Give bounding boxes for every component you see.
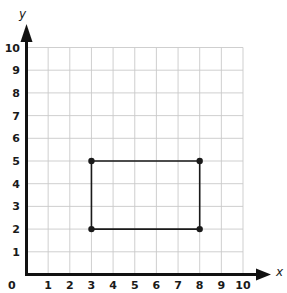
x-axis-label: x	[275, 265, 284, 279]
x-tick-label: 4	[109, 279, 117, 292]
y-tick-label: 5	[12, 155, 20, 168]
x-tick-label: 3	[88, 279, 96, 292]
x-tick-label: 6	[153, 279, 161, 292]
x-tick-label: 10	[235, 279, 251, 292]
rectangle-outline	[91, 161, 199, 229]
y-tick-label: 8	[12, 87, 20, 100]
vertex-point	[88, 158, 94, 164]
plotted-shapes	[88, 158, 203, 233]
vertex-point	[197, 158, 203, 164]
y-tick-label: 9	[12, 64, 20, 77]
y-tick-label: 3	[12, 200, 20, 213]
coordinate-plane: 01234567891012345678910 x y	[0, 0, 287, 293]
origin-label: 0	[8, 279, 16, 292]
y-axis-arrow-icon	[21, 24, 33, 42]
x-tick-label: 7	[174, 279, 182, 292]
vertex-point	[88, 226, 94, 232]
tick-labels: 01234567891012345678910	[5, 42, 251, 293]
y-tick-label: 10	[5, 42, 21, 55]
x-tick-label: 8	[196, 279, 204, 292]
x-tick-label: 2	[66, 279, 74, 292]
y-tick-label: 2	[12, 223, 20, 236]
y-tick-label: 6	[12, 132, 20, 145]
y-tick-label: 4	[12, 178, 20, 191]
x-tick-label: 1	[44, 279, 52, 292]
y-axis-label: y	[18, 7, 27, 21]
y-tick-label: 7	[12, 110, 20, 123]
axes	[21, 24, 272, 281]
x-tick-label: 5	[131, 279, 139, 292]
y-tick-label: 1	[12, 246, 20, 259]
vertex-point	[197, 226, 203, 232]
x-axis-arrow-icon	[256, 269, 271, 281]
x-tick-label: 9	[218, 279, 226, 292]
